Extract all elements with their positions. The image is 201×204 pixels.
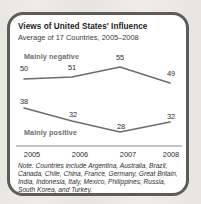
panel-content: Views of United States' Influence Averag… <box>10 15 186 193</box>
note-line: Canada, Chile, China, France, Germany, G… <box>18 170 186 178</box>
data-label-positive-2007: 28 <box>117 122 125 131</box>
series-label-mainly-positive: Mainly positive <box>24 128 77 137</box>
x-axis-tick-2006: 2006 <box>72 150 88 159</box>
note-line: Note: Countries include Argentina, Austr… <box>18 162 186 170</box>
data-label-positive-2008: 32 <box>167 112 175 121</box>
page-title: Views of United States' Influence <box>18 22 178 32</box>
data-label-negative-2006: 51 <box>68 63 76 72</box>
note-line: India, Indonesia, Italy, Mexico, Philipp… <box>18 178 186 186</box>
data-label-positive-2005: 38 <box>20 97 28 106</box>
chart-svg: Mainly negative 50 51 55 49 38 32 28 32 … <box>10 51 186 161</box>
data-label-negative-2005: 50 <box>20 64 28 73</box>
x-axis-tick-2005: 2005 <box>24 150 40 159</box>
chart-note: Note: Countries include Argentina, Austr… <box>18 162 186 194</box>
series-line-mainly-negative <box>24 67 170 83</box>
series-label-mainly-negative: Mainly negative <box>24 52 79 61</box>
line-chart: Mainly negative 50 51 55 49 38 32 28 32 … <box>10 51 186 161</box>
data-label-negative-2007: 55 <box>116 53 124 62</box>
note-line: South Korea, and Turkey. <box>18 186 186 194</box>
info-panel: Views of United States' Influence Averag… <box>7 12 189 196</box>
page-subtitle: Average of 17 Countries, 2005–2008 <box>18 33 178 43</box>
x-axis-tick-2007: 2007 <box>120 150 136 159</box>
data-label-negative-2008: 49 <box>167 69 175 78</box>
data-label-positive-2006: 32 <box>69 110 77 119</box>
x-axis-tick-2008: 2008 <box>163 150 179 159</box>
